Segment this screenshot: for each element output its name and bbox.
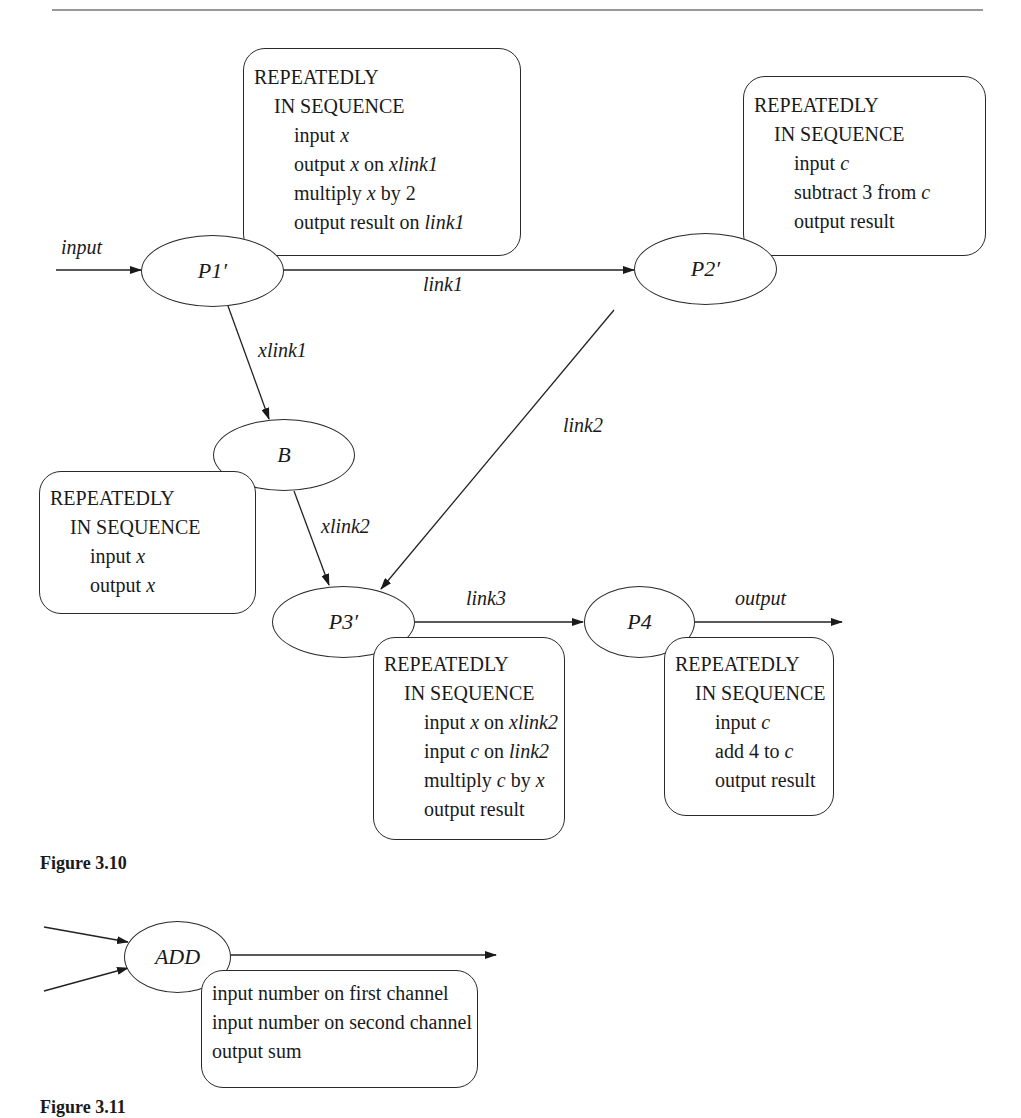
edge-add-in-1 — [44, 927, 128, 942]
box-header: REPEATEDLY — [254, 63, 510, 92]
box-line: input number on first channel — [212, 979, 467, 1008]
edge-label-input: input — [61, 236, 102, 259]
node-p2: P2′ — [634, 233, 777, 305]
box-line: input x — [50, 542, 245, 571]
box-line: add 4 to c — [675, 737, 823, 766]
box-line: multiply c by x — [384, 766, 554, 795]
process-box-p3: REPEATEDLY IN SEQUENCE input x on xlink2… — [373, 637, 565, 840]
edge-xlink1 — [228, 306, 269, 419]
edge-add-in-2 — [44, 968, 128, 991]
box-line: input c on link2 — [384, 737, 554, 766]
process-box-p4: REPEATEDLY IN SEQUENCE input c add 4 to … — [664, 637, 834, 816]
box-header: REPEATEDLY — [50, 484, 245, 513]
box-subheader: IN SEQUENCE — [754, 120, 975, 149]
box-subheader: IN SEQUENCE — [384, 679, 554, 708]
box-line: output x — [50, 571, 245, 600]
box-line: output result — [384, 795, 554, 824]
box-line: input c — [754, 149, 975, 178]
box-line: output result — [754, 207, 975, 236]
edge-xlink2 — [294, 491, 329, 585]
edge-link2 — [381, 310, 614, 589]
process-box-b: REPEATEDLY IN SEQUENCE input x output x — [39, 471, 256, 614]
box-header: REPEATEDLY — [754, 91, 975, 120]
box-line: output x on xlink1 — [254, 150, 510, 179]
process-box-p1: REPEATEDLY IN SEQUENCE input x output x … — [243, 48, 521, 256]
box-subheader: IN SEQUENCE — [50, 513, 245, 542]
box-line: input x — [254, 121, 510, 150]
figure-caption-3-11: Figure 3.11 — [40, 1097, 126, 1118]
edge-label-link2: link2 — [563, 414, 603, 437]
box-line: input number on second channel — [212, 1008, 467, 1037]
box-line: output result on link1 — [254, 208, 510, 237]
box-line: output sum — [212, 1037, 467, 1066]
box-line: output result — [675, 766, 823, 795]
process-box-add: input number on first channel input numb… — [201, 970, 478, 1088]
edge-label-xlink1: xlink1 — [258, 339, 307, 362]
figure-caption-3-10: Figure 3.10 — [40, 853, 127, 874]
edge-label-xlink2: xlink2 — [321, 515, 370, 538]
box-header: REPEATEDLY — [384, 650, 554, 679]
box-line: input c — [675, 708, 823, 737]
node-p1: P1′ — [141, 235, 284, 307]
edge-label-link3: link3 — [466, 587, 506, 610]
box-subheader: IN SEQUENCE — [254, 92, 510, 121]
box-header: REPEATEDLY — [675, 650, 823, 679]
box-line: subtract 3 from c — [754, 178, 975, 207]
box-line: multiply x by 2 — [254, 179, 510, 208]
box-line: input x on xlink2 — [384, 708, 554, 737]
edge-label-output: output — [735, 587, 786, 610]
process-box-p2: REPEATEDLY IN SEQUENCE input c subtract … — [743, 76, 986, 256]
edge-label-link1: link1 — [423, 273, 463, 296]
box-subheader: IN SEQUENCE — [675, 679, 823, 708]
